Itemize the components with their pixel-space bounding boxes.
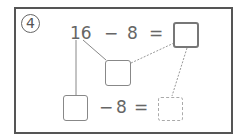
- answer-box[interactable]: [173, 22, 199, 48]
- minuend: 16: [70, 25, 92, 42]
- remaining-box[interactable]: [63, 95, 88, 121]
- bottom-minus-sign: −: [99, 99, 113, 116]
- bottom-equals-sign: =: [134, 99, 148, 116]
- equals-sign: =: [149, 25, 163, 42]
- bottom-subtrahend: 8: [116, 99, 127, 116]
- minus-sign: −: [104, 25, 118, 42]
- bottom-answer-box[interactable]: [158, 97, 183, 121]
- part-box[interactable]: [105, 60, 131, 86]
- subtrahend: 8: [127, 25, 138, 42]
